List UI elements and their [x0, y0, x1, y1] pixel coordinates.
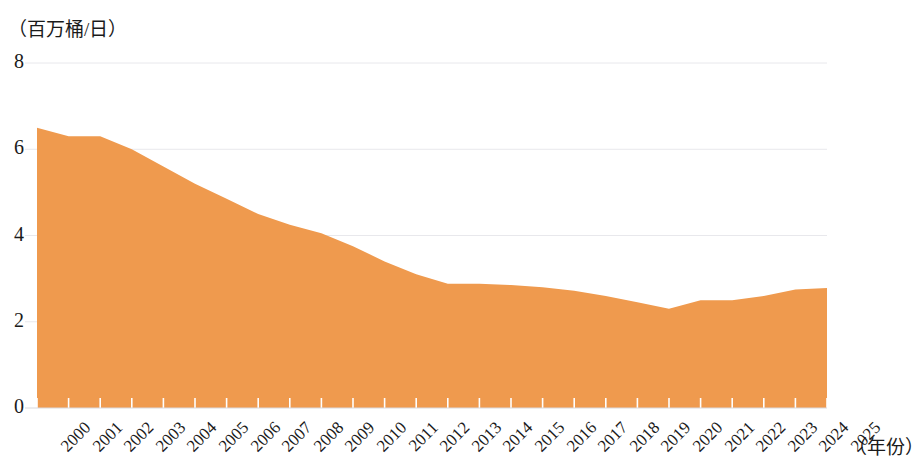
y-axis-tick-label: 4 — [2, 223, 24, 246]
area-series-path — [37, 128, 827, 408]
chart-container: （百万桶/日） （年份） 02468 200020012002200320042… — [0, 0, 922, 470]
area-chart-plot — [0, 0, 922, 470]
y-axis-tick-label: 6 — [2, 136, 24, 159]
y-axis-tick-label: 8 — [2, 50, 24, 73]
y-axis-tick-label: 2 — [2, 309, 24, 332]
y-axis-tick-label: 0 — [2, 395, 24, 418]
